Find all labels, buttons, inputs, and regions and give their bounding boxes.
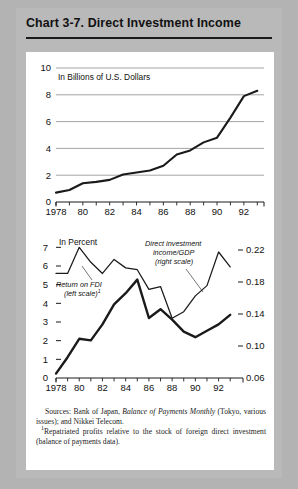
- svg-text:3: 3: [43, 316, 48, 327]
- svg-text:6: 6: [46, 116, 51, 127]
- svg-text:88: 88: [185, 206, 196, 217]
- top-chart-svg: 0246810 197880828486889092 In Billions o…: [26, 52, 274, 230]
- svg-text:0.10: 0.10: [246, 340, 265, 351]
- bottom-chart-right-axis-ticks: [238, 250, 243, 346]
- svg-text:92: 92: [213, 382, 224, 393]
- legend-right-line2: income/GDP: [153, 248, 194, 257]
- legend-right-line1: Direct investment: [145, 239, 202, 248]
- svg-text:2: 2: [46, 170, 51, 181]
- notes-sources-prefix: Sources: Bank of Japan,: [45, 407, 122, 416]
- svg-text:88: 88: [167, 382, 178, 393]
- bottom-chart-left-axis-labels: 01234567: [43, 242, 48, 384]
- bottom-chart-legend-left: Return on FDI (left scale)1: [56, 266, 102, 298]
- svg-text:90: 90: [190, 382, 201, 393]
- bottom-chart-svg: 01234567 0.060.100.140.180.22 1978808284…: [26, 230, 274, 406]
- svg-text:84: 84: [131, 206, 142, 217]
- svg-text:90: 90: [212, 206, 223, 217]
- notes-footnote: 1Repatriated profits relative to the sto…: [36, 427, 266, 446]
- svg-text:7: 7: [43, 242, 48, 253]
- svg-text:1978: 1978: [45, 206, 66, 217]
- top-chart-x-axis-labels: 197880828486889092: [45, 206, 249, 217]
- svg-text:92: 92: [239, 206, 250, 217]
- top-chart-unit-label: In Billions of U.S. Dollars: [58, 72, 150, 82]
- title-divider: [26, 37, 272, 39]
- svg-text:80: 80: [78, 206, 89, 217]
- footnote-text: Repatriated profits relative to the stoc…: [36, 427, 266, 446]
- svg-text:0.18: 0.18: [246, 276, 265, 287]
- chart-figure: Chart 3-7. Direct Investment Income 0246…: [0, 0, 298, 489]
- bottom-chart-x-axis-labels: 197880828486889092: [45, 382, 223, 393]
- bottom-chart-left-axis-ticks: [56, 247, 61, 359]
- svg-text:1: 1: [43, 354, 48, 365]
- svg-text:0.22: 0.22: [246, 244, 265, 255]
- svg-text:8: 8: [46, 89, 51, 100]
- svg-text:80: 80: [74, 382, 85, 393]
- svg-text:10: 10: [40, 62, 51, 73]
- bottom-chart-legend-right: Direct investment income/GDP (right scal…: [145, 239, 203, 292]
- legend-right-leader-line: [186, 269, 203, 292]
- chart-notes: Sources: Bank of Japan, Balance of Payme…: [36, 407, 266, 446]
- legend-right-line3: (right scale): [155, 257, 193, 266]
- notes-sources: Sources: Bank of Japan, Balance of Payme…: [36, 407, 266, 426]
- top-chart-line-series: [56, 91, 257, 193]
- svg-text:82: 82: [97, 382, 108, 393]
- legend-left-line1: Return on FDI: [56, 280, 102, 289]
- svg-text:0.06: 0.06: [246, 372, 265, 383]
- bottom-chart-right-axis-labels: 0.060.100.140.180.22: [246, 244, 265, 383]
- chart-title-block: Chart 3-7. Direct Investment Income: [26, 16, 274, 46]
- svg-text:1978: 1978: [45, 382, 66, 393]
- top-chart-x-axis: [56, 68, 264, 207]
- page-title: Chart 3-7. Direct Investment Income: [26, 16, 274, 30]
- svg-text:86: 86: [144, 382, 155, 393]
- svg-text:82: 82: [104, 206, 115, 217]
- svg-text:84: 84: [120, 382, 131, 393]
- svg-text:4: 4: [43, 298, 48, 309]
- top-chart-y-axis-labels: 0246810: [40, 62, 51, 207]
- svg-text:6: 6: [43, 260, 48, 271]
- svg-text:2: 2: [43, 335, 48, 346]
- notes-sources-publication: Balance of Payments Monthly: [122, 407, 215, 416]
- legend-left-line2: (left scale)1: [64, 288, 101, 298]
- chart-panel: 0246810 197880828486889092 In Billions o…: [26, 52, 274, 470]
- svg-text:4: 4: [46, 143, 51, 154]
- bottom-chart-unit-label: In Percent: [59, 237, 98, 247]
- top-chart-gridlines: [56, 68, 264, 175]
- svg-text:86: 86: [158, 206, 169, 217]
- svg-text:5: 5: [43, 279, 48, 290]
- legend-left-leader-line: [82, 266, 92, 280]
- svg-text:0.14: 0.14: [246, 308, 265, 319]
